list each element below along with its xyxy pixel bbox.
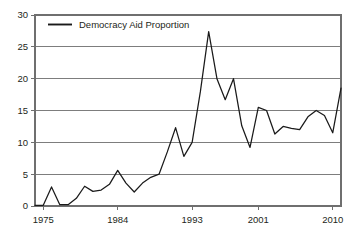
y-tick-label-0: 0 (23, 200, 28, 211)
y-tick-marks (31, 15, 35, 206)
x-tick-label-1993: 1993 (182, 214, 203, 225)
x-tick-label-1984: 1984 (107, 214, 128, 225)
x-tick-label-2010: 2010 (322, 214, 343, 225)
y-tick-label-5: 5 (23, 169, 28, 180)
y-tick-label-10: 10 (17, 137, 28, 148)
y-axis-tick-labels: 051015202530 (17, 9, 28, 211)
x-tick-label-1975: 1975 (33, 214, 54, 225)
y-tick-label-15: 15 (17, 105, 28, 116)
chart-figure: 051015202530 19751984199320012010 Democr… (0, 0, 351, 234)
x-tick-marks (43, 206, 332, 210)
line-chart: 051015202530 19751984199320012010 Democr… (0, 0, 351, 234)
legend-label-democracy-aid-proportion: Democracy Aid Proportion (79, 19, 189, 30)
x-tick-label-2001: 2001 (248, 214, 269, 225)
y-tick-label-30: 30 (17, 9, 28, 20)
x-axis-tick-labels: 19751984199320012010 (33, 214, 344, 225)
y-tick-label-25: 25 (17, 41, 28, 52)
y-tick-label-20: 20 (17, 73, 28, 84)
